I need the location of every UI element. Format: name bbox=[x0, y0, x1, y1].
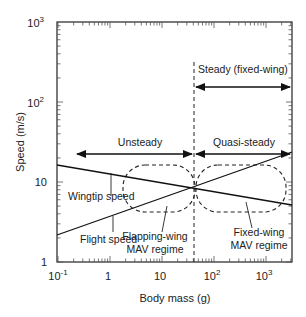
unsteady-label: Unsteady bbox=[118, 136, 163, 148]
quasi-steady-label: Quasi-steady bbox=[213, 136, 276, 148]
fixed-wing-region bbox=[196, 165, 286, 212]
x-axis-title: Body mass (g) bbox=[140, 292, 211, 304]
fixed-leader bbox=[246, 202, 252, 228]
x-tick-label: 103 bbox=[256, 268, 273, 282]
y-tick-label: 102 bbox=[27, 95, 44, 109]
flapping-wing-label-2: MAV regime bbox=[127, 243, 184, 255]
y-axis-title: Speed (m/s) bbox=[14, 112, 26, 172]
y-tick-label: 1 bbox=[41, 256, 47, 268]
fixed-wing-label-2: MAV regime bbox=[231, 239, 288, 251]
fixed-wing-label: Fixed-wing bbox=[234, 226, 285, 238]
x-axis-labels: 10-1 1 10 102 103 bbox=[48, 268, 273, 282]
x-tick-label: 102 bbox=[204, 268, 221, 282]
x-tick-label: 10 bbox=[154, 270, 166, 282]
x-tick-label: 10-1 bbox=[48, 268, 68, 282]
flapping-leader bbox=[162, 206, 167, 232]
x-tick-label: 1 bbox=[105, 270, 111, 282]
steady-label: Steady (fixed-wing) bbox=[198, 63, 288, 75]
y-tick-label: 103 bbox=[27, 15, 44, 29]
y-tick-label: 10 bbox=[35, 176, 47, 188]
flapping-wing-region bbox=[123, 165, 195, 212]
wingtip-speed-label: Wingtip speed bbox=[68, 190, 135, 202]
chart: 1 10 102 103 10-1 1 10 102 103 Body mass… bbox=[0, 0, 306, 317]
flapping-wing-label: Flapping-wing bbox=[122, 230, 188, 242]
y-axis-labels: 1 10 102 103 bbox=[27, 15, 47, 268]
